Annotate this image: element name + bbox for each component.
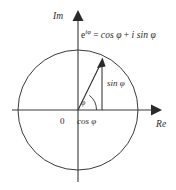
formula-plus: + (124, 30, 129, 40)
imaginary-axis-label: Im (53, 12, 63, 22)
cos-phi-label: cos φ (77, 117, 96, 126)
real-axis-arrowhead (151, 105, 162, 116)
imaginary-axis-arrowhead (73, 10, 84, 21)
formula-equals: = (93, 30, 98, 40)
euler-formula-text: eiφ=cos φ+i sin φ (81, 29, 156, 41)
angle-arc (89, 95, 96, 110)
euler-formula-diagram: Im Re eiφ=cos φ+i sin φ sin φ cos φ 0 φ (0, 0, 176, 190)
radius-vector-arrowhead (97, 58, 106, 69)
formula-cos-term: cos φ (101, 30, 122, 40)
angle-phi-label: φ (81, 99, 85, 107)
formula-exponent: iφ (85, 28, 91, 35)
real-axis-label: Re (156, 120, 166, 130)
origin-label: 0 (60, 117, 65, 126)
sin-phi-label: sin φ (107, 79, 125, 88)
formula-sin-term: i sin φ (132, 30, 156, 40)
